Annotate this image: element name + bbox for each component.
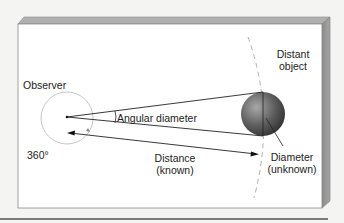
diameter-label-line2: (unknown)	[264, 163, 320, 175]
distance-label-line2: (known)	[145, 164, 205, 176]
full-circle-label: 360°	[27, 149, 49, 161]
observer-point	[66, 116, 69, 119]
distant-object-sphere	[241, 92, 285, 136]
distance-label: Distance (known)	[145, 152, 205, 176]
diameter-label-line1: Diameter	[264, 151, 320, 163]
bottom-rule	[0, 218, 328, 220]
observer-label: Observer	[23, 79, 66, 91]
distance-label-line1: Distance	[145, 152, 205, 164]
angular-diameter-label: Angular diameter	[117, 112, 197, 124]
diameter-label: Diameter (unknown)	[264, 151, 320, 175]
distant-object-label-line1: Distant	[268, 48, 318, 60]
distant-object-label-line2: object	[268, 60, 318, 72]
panel-side-face	[322, 17, 330, 208]
distant-object-label: Distant object	[268, 48, 318, 72]
panel-top-edge	[18, 17, 330, 24]
